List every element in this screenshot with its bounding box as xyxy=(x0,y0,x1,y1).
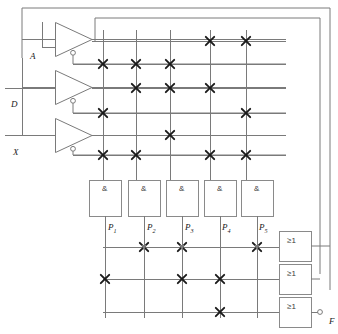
or-gate-3-symbol: ≥1 xyxy=(287,302,296,311)
and-gate-2-output-label: P2 xyxy=(147,222,156,234)
and-gate-5-output-label: P5 xyxy=(259,222,268,234)
or-gate-2-symbol: ≥1 xyxy=(287,269,296,278)
and-gate-1-symbol: & xyxy=(102,184,107,193)
input-label-d: D xyxy=(11,99,18,109)
output-bubble-f xyxy=(318,310,323,315)
inverter-bubble-2 xyxy=(71,98,76,103)
inverter-bubble-3 xyxy=(71,146,76,151)
wire-layer xyxy=(0,0,338,334)
and-gate-5-symbol: & xyxy=(254,184,259,193)
and-gate-3-symbol: & xyxy=(179,184,184,193)
output-label-f: F xyxy=(329,316,335,326)
and-gate-3-output-label: P3 xyxy=(185,222,194,234)
input-label-x: X xyxy=(13,147,19,157)
inverter-bubble-1 xyxy=(71,50,76,55)
and-gate-1-output-label: P1 xyxy=(108,222,117,234)
and-gate-2-symbol: & xyxy=(141,184,146,193)
and-gate-4-output-label: P4 xyxy=(222,222,231,234)
input-label-a: A xyxy=(30,51,36,61)
circuit-diagram-canvas: &P1&P2&P3&P4&P5≥1≥1≥1ADXF xyxy=(0,0,338,334)
or-gate-1-symbol: ≥1 xyxy=(287,236,296,245)
and-gate-4-symbol: & xyxy=(217,184,222,193)
